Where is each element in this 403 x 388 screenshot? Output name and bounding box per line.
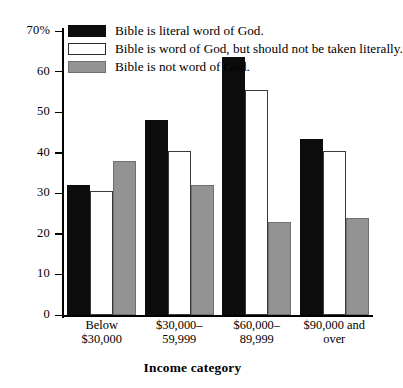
x-axis-label: $30,000–59,999 (141, 319, 219, 346)
x-axis-label-line: over (296, 333, 374, 347)
y-tick-mark (55, 193, 63, 194)
x-axis-label-line: 89,999 (218, 333, 296, 347)
y-tick-label: 10 (0, 267, 50, 280)
legend-swatch-white (68, 43, 106, 55)
y-tick-label: 70% (0, 24, 50, 37)
bar (222, 57, 245, 315)
bar (168, 151, 191, 315)
x-axis-line (62, 315, 373, 317)
y-tick-label: 20 (0, 227, 50, 240)
x-axis-label-line: $30,000 (63, 333, 141, 347)
legend-label: Bible is literal word of God. (115, 24, 264, 38)
y-tick-label: 40 (0, 146, 50, 159)
x-axis-labels: Below$30,000$30,000–59,999$60,000–89,999… (63, 319, 373, 359)
y-tick-label: 30 (0, 186, 50, 199)
y-tick-mark (55, 71, 63, 72)
legend-swatch-gray (68, 61, 106, 73)
bar (113, 161, 136, 315)
y-tick-mark (55, 31, 63, 32)
x-axis-label-line: 59,999 (141, 333, 219, 347)
x-axis-label-line: $60,000– (218, 319, 296, 333)
y-tick-mark (55, 152, 63, 153)
legend-item: Bible is literal word of God. (68, 22, 403, 39)
y-tick-label: 0 (0, 308, 50, 321)
legend-label: Bible is word of God, but should not be … (115, 42, 403, 56)
x-axis-label: Below$30,000 (63, 319, 141, 346)
x-axis-title: Income category (0, 360, 385, 376)
bar (145, 120, 168, 315)
legend-swatch-black (68, 25, 106, 37)
x-axis-label-line: Below (63, 319, 141, 333)
bar (67, 185, 90, 315)
chart-legend: Bible is literal word of God. Bible is w… (68, 22, 403, 76)
x-axis-label-line: $30,000– (141, 319, 219, 333)
bar (90, 191, 113, 315)
y-tick-mark (55, 233, 63, 234)
bar (268, 222, 291, 315)
legend-item: Bible is word of God, but should not be … (68, 40, 403, 57)
y-tick-label: 50 (0, 105, 50, 118)
bar (300, 139, 323, 315)
bar (245, 90, 268, 315)
x-axis-label: $90,000 andover (296, 319, 374, 346)
bar (191, 185, 214, 315)
legend-item: Bible is not word of God. (68, 58, 403, 75)
legend-label: Bible is not word of God. (115, 60, 250, 74)
x-axis-label: $60,000–89,999 (218, 319, 296, 346)
bar (346, 218, 369, 315)
x-axis-label-line: $90,000 and (296, 319, 374, 333)
y-tick-mark (55, 315, 63, 316)
y-tick-mark (55, 274, 63, 275)
bar (323, 151, 346, 315)
y-tick-mark (55, 112, 63, 113)
y-tick-label: 60 (0, 65, 50, 78)
